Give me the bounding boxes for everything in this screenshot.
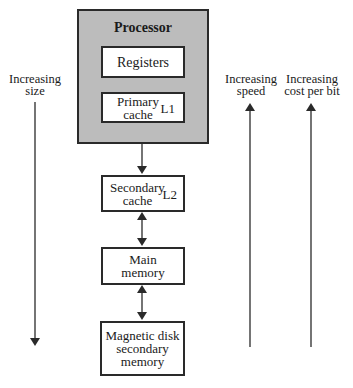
- main-memory-box: Main memory: [101, 247, 185, 285]
- speed-label-line2: speed: [218, 85, 284, 97]
- secondary-cache-line2: cache: [123, 194, 153, 207]
- registers-box: Registers: [101, 46, 185, 78]
- secondary-cache-line1: Secondary: [110, 181, 165, 194]
- main-memory-line2: memory: [121, 266, 164, 279]
- processor-title: Processor: [79, 20, 207, 36]
- speed-label: Increasing speed: [218, 73, 284, 97]
- primary-cache-line2: cache: [123, 108, 153, 121]
- size-label-line2: size: [2, 85, 68, 97]
- disk-box: Magnetic disk secondary memory: [100, 321, 185, 376]
- cost-label-line2: cost per bit: [278, 85, 346, 97]
- size-label: Increasing size: [2, 73, 68, 97]
- primary-cache-box: Primary cache L1: [101, 92, 185, 123]
- disk-line3: memory: [121, 355, 164, 368]
- l2-tag: L2: [163, 188, 177, 201]
- primary-cache-line1: Primary: [117, 95, 159, 108]
- secondary-cache-box: Secondary cache L2: [101, 175, 185, 212]
- registers-label: Registers: [117, 56, 169, 69]
- l1-tag: L1: [161, 102, 175, 115]
- cost-label: Increasing cost per bit: [278, 73, 346, 97]
